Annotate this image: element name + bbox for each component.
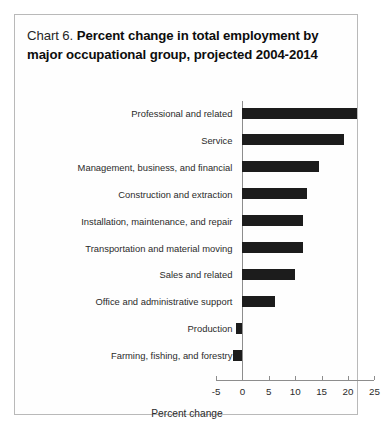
- category-label: Transportation and material moving: [42, 243, 232, 254]
- x-axis-label: Percent change: [15, 408, 359, 419]
- category-label: Production: [42, 323, 232, 334]
- bar: [242, 108, 357, 119]
- bar: [236, 323, 243, 334]
- x-tick: [269, 376, 270, 380]
- x-tick-label: -5: [203, 386, 229, 397]
- category-label: Service: [42, 135, 232, 146]
- x-tick-label: 15: [309, 386, 335, 397]
- bar: [242, 215, 303, 226]
- chart-figure: Chart 6. Percent change in total employm…: [14, 14, 358, 415]
- category-label: Installation, maintenance, and repair: [42, 216, 232, 227]
- x-tick-label: 25: [361, 386, 385, 397]
- x-tick-label: 0: [229, 386, 255, 397]
- bar: [242, 134, 344, 145]
- category-label: Sales and related: [42, 269, 232, 280]
- bar: [242, 188, 307, 199]
- bar: [242, 242, 302, 253]
- x-tick-label: 5: [256, 386, 282, 397]
- category-label: Office and administrative support: [42, 296, 232, 307]
- category-label: Professional and related: [42, 108, 232, 119]
- bar: [242, 161, 319, 172]
- x-tick: [242, 376, 243, 380]
- plot-area: Professional and relatedServiceManagemen…: [15, 15, 359, 416]
- category-label: Management, business, and financial: [42, 162, 232, 173]
- x-tick-label: 20: [335, 386, 361, 397]
- category-label: Construction and extraction: [42, 189, 232, 200]
- bar: [233, 350, 243, 361]
- x-tick: [348, 376, 349, 380]
- bar: [242, 296, 274, 307]
- x-tick: [322, 376, 323, 380]
- x-tick-label: 10: [282, 386, 308, 397]
- x-tick: [295, 376, 296, 380]
- x-tick: [374, 376, 375, 380]
- category-label: Farming, fishing, and forestry: [42, 350, 232, 361]
- x-axis-line: [216, 380, 374, 381]
- x-tick: [216, 376, 217, 380]
- bar: [242, 269, 295, 280]
